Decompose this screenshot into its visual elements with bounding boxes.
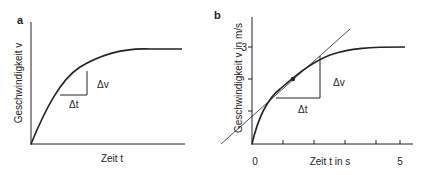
panel-b-x-label: Zeit t in s bbox=[310, 156, 351, 167]
panel-b-label: b bbox=[214, 9, 221, 21]
panel-a-label: a bbox=[17, 14, 24, 26]
panel-b-point bbox=[291, 77, 295, 81]
panel-b-triangle bbox=[276, 56, 320, 98]
panel-a-delta-t: Δt bbox=[69, 99, 79, 110]
panel-a-curve bbox=[31, 49, 182, 144]
panel-b-x-tick-5: 5 bbox=[397, 156, 403, 167]
panel-b: b 0 5 3 Δv Δt Zeit t in s Geschwindigkei… bbox=[214, 9, 413, 167]
panel-b-delta-t: Δt bbox=[298, 104, 308, 115]
panel-a-x-label: Zeit t bbox=[101, 153, 123, 164]
panel-b-x-tick-0: 0 bbox=[252, 156, 258, 167]
panel-b-y-label: Geschwindigkeit v in m/s bbox=[233, 23, 244, 133]
panel-a-y-label: Geschwindigkeit v bbox=[13, 43, 24, 124]
panel-a: a Δv Δt Zeit t Geschwindigkeit v bbox=[13, 14, 185, 164]
panel-a-delta-v: Δv bbox=[97, 79, 109, 90]
panel-b-delta-v: Δv bbox=[333, 77, 345, 88]
figure: a Δv Δt Zeit t Geschwindigkeit v b 0 5 3… bbox=[0, 0, 426, 175]
